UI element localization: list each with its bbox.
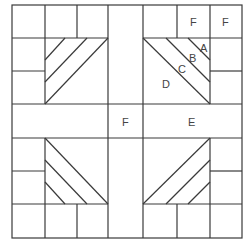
block-top-left bbox=[12, 5, 108, 104]
quilt-block-diagram: F F A B C D F E bbox=[0, 0, 245, 244]
label-d: D bbox=[162, 78, 170, 90]
label-b: B bbox=[189, 52, 196, 64]
label-f-center: F bbox=[122, 116, 129, 128]
label-f-top-1: F bbox=[190, 16, 197, 28]
label-a: A bbox=[200, 42, 208, 54]
label-e: E bbox=[188, 116, 195, 128]
label-c: C bbox=[178, 63, 186, 75]
block-bottom-right bbox=[143, 138, 242, 238]
label-f-top-2: F bbox=[222, 16, 229, 28]
block-bottom-left bbox=[12, 138, 108, 238]
